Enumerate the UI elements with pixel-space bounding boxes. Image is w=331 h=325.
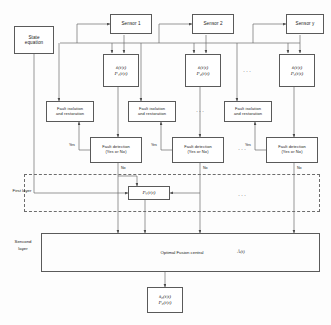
sensor-2-box[interactable]: Sensor 2 — [192, 14, 234, 34]
cross-covariance-box[interactable]: Pᵢⱼ(t|t) — [128, 186, 170, 200]
optimal-fusion-central-variable: Âᵢ(t) — [224, 249, 258, 254]
sensor-y-label: Sensor y — [287, 21, 323, 26]
sensor-2-label: Sensor 2 — [193, 21, 233, 26]
fault-detection-1-box[interactable]: Fault detection (Yes or No) — [90, 137, 142, 163]
sensor-1-label: Sensor 1 — [111, 21, 151, 26]
second-layer-label-line2: layer — [2, 246, 44, 252]
fault-detection-y-yes-label: Yes — [245, 143, 251, 147]
state-equation-box[interactable]: State equation — [14, 26, 54, 54]
estimate-y-box[interactable]: x̂(t|t) Pᵧ(t|t) — [279, 54, 315, 87]
fault-detection-1-line2: (Yes or No) — [91, 150, 141, 155]
fault-isolation-y-box[interactable]: Fault isolation and restoration — [224, 101, 272, 122]
fault-isolation-2-line2: and restoration — [129, 112, 175, 117]
fault-isolation-y-line2: and restoration — [225, 112, 271, 117]
ellipsis-first-layer: ··· — [238, 192, 247, 198]
sensor-y-box[interactable]: Sensor y — [286, 14, 324, 34]
first-layer-label: First layer — [2, 188, 42, 194]
fault-detection-y-no-label: No — [297, 166, 302, 170]
fault-isolation-2-box[interactable]: Fault isolation and restoration — [128, 101, 176, 122]
fault-detection-2-yes-label: Yes — [151, 143, 157, 147]
estimate-2-box[interactable]: x̂(t|t) P₂(t|t) — [185, 54, 221, 87]
fault-isolation-1-box[interactable]: Fault isolation and restoration — [46, 101, 94, 122]
diagram-canvas: State equation Sensor 1 Sensor 2 Sensor … — [0, 0, 331, 325]
cross-covariance-text: Pᵢⱼ(t|t) — [129, 190, 169, 196]
ellipsis-estimates: ··· — [243, 68, 252, 74]
fault-detection-2-no-label: No — [203, 166, 208, 170]
second-layer-label-line1: Sencond — [2, 239, 44, 245]
fault-detection-y-line2: (Yes or No) — [267, 150, 317, 155]
estimate-y-cov: Pᵧ(t|t) — [280, 71, 314, 77]
fault-detection-y-box[interactable]: Fault detection (Yes or No) — [266, 137, 318, 163]
fault-detection-1-no-label: No — [121, 166, 126, 170]
estimate-2-cov: P₂(t|t) — [186, 71, 220, 77]
fault-detection-1-yes-label: Yes — [69, 143, 75, 147]
fault-isolation-1-line2: and restoration — [47, 112, 93, 117]
first-layer-region — [24, 174, 320, 212]
ellipsis-isolation: ··· — [196, 108, 205, 114]
fusion-output-cov: P₀(t|t) — [148, 300, 182, 306]
fault-detection-2-line2: (Yes or No) — [173, 150, 223, 155]
estimate-1-box[interactable]: x̂(t|t) P₁(t|t) — [103, 54, 139, 87]
optimal-fusion-central-label: Optimal Fusion central — [145, 250, 219, 255]
state-equation-line2: equation — [15, 40, 53, 45]
fault-detection-2-box[interactable]: Fault detection (Yes or No) — [172, 137, 224, 163]
sensor-1-box[interactable]: Sensor 1 — [110, 14, 152, 34]
fusion-output-box[interactable]: x̂₀(t|t) P₀(t|t) — [147, 287, 183, 313]
estimate-1-cov: P₁(t|t) — [104, 71, 138, 77]
